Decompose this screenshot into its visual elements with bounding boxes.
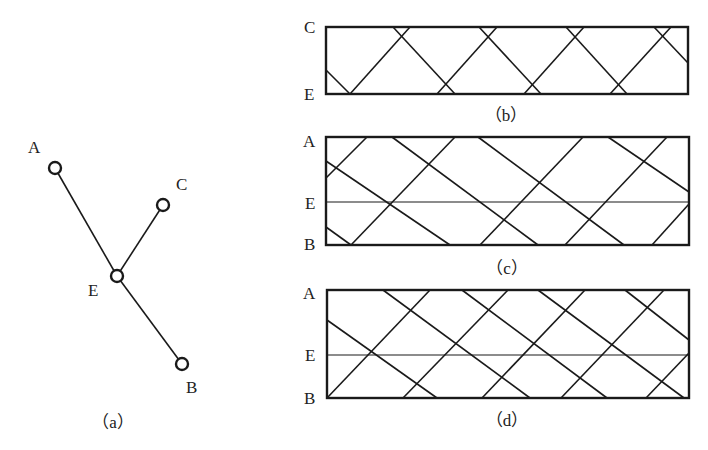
node-e <box>111 270 123 282</box>
panel-a-tree: ACEB （a） <box>28 138 197 432</box>
node-label-c: C <box>176 175 187 194</box>
node-a <box>49 162 61 174</box>
ray-segment <box>403 290 508 398</box>
ray-segment <box>652 204 689 245</box>
panel-c-lattice: A E B （c） <box>303 132 689 278</box>
ray-segment <box>482 290 585 398</box>
panel-b-lattice: C E （b） <box>304 18 688 125</box>
tree-edge-ec <box>117 205 163 276</box>
panel-d-rays <box>327 290 689 398</box>
ray-segment <box>561 290 664 398</box>
panel-b-caption: （b） <box>485 106 528 125</box>
panel-c-top-label: A <box>303 132 316 151</box>
panel-d-top-label: A <box>303 284 316 303</box>
ray-segment <box>326 227 351 245</box>
panel-c-frame <box>326 137 689 245</box>
node-label-e: E <box>88 281 98 300</box>
panel-c-mid-label: E <box>305 194 315 213</box>
node-label-b: B <box>186 378 197 397</box>
ray-segment <box>326 70 350 94</box>
panel-b-rays <box>326 27 688 94</box>
panel-b-bottom-label: E <box>304 85 314 104</box>
ray-segment <box>351 137 455 245</box>
panel-c-caption: （c） <box>486 259 528 278</box>
ray-segment <box>327 320 437 398</box>
ray-segment <box>326 137 367 178</box>
ray-segment <box>392 137 538 245</box>
panel-d-bottom-label: B <box>304 389 315 408</box>
ray-segment <box>479 27 541 94</box>
node-b <box>176 358 188 370</box>
ray-segment <box>654 27 688 63</box>
ray-segment <box>326 161 450 245</box>
panel-a-caption: （a） <box>92 413 134 432</box>
ray-segment <box>478 137 624 245</box>
panel-c-bottom-label: B <box>304 235 315 254</box>
ray-segment <box>565 137 667 245</box>
ray-segment <box>350 27 410 94</box>
panel-c-rays <box>326 137 689 245</box>
panel-d-mid-label: E <box>305 346 315 365</box>
ray-segment <box>566 27 627 94</box>
tree-edge-ae <box>55 168 117 276</box>
ray-segment <box>610 27 671 94</box>
node-label-a: A <box>28 138 41 157</box>
ray-segment <box>480 137 583 245</box>
ray-segment <box>608 137 689 192</box>
panel-d-lattice: A E B （d） <box>303 284 689 430</box>
tree-edge-eb <box>117 276 182 364</box>
figure-canvas: ACEB （a） C E （b） A E B （c） A E B （d） <box>0 0 708 450</box>
panel-d-caption: （d） <box>486 411 529 430</box>
tree-edges <box>55 168 182 364</box>
node-c <box>157 199 169 211</box>
panel-b-top-label: C <box>304 18 315 37</box>
